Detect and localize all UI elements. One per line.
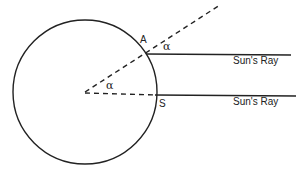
label-angle-alpha-center: α [106,79,114,92]
label-sun-ray-bottom: Sun's Ray [233,96,278,107]
label-point-s: S [159,98,166,109]
label-point-a: A [140,34,147,45]
earth-sun-ray-diagram: A S α α Sun's Ray Sun's Ray [0,0,302,170]
label-angle-alpha-top: α [163,40,171,53]
label-sun-ray-top: Sun's Ray [233,55,278,66]
dashed-radius-to-s [85,93,157,95]
